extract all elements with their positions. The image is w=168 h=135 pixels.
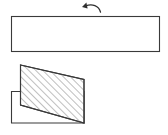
rotation-arrow-arc [86, 5, 101, 12]
technical-drawing-figure [0, 0, 168, 135]
rotation-arrow-group [82, 3, 101, 13]
rotation-arrow-head-icon [82, 3, 88, 9]
top-view-plate [12, 17, 160, 52]
drawing-canvas [0, 0, 168, 135]
